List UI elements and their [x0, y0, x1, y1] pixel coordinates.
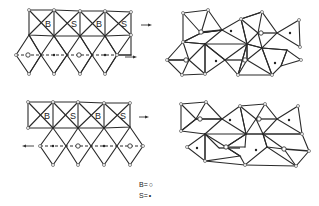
b-site-icon	[128, 144, 132, 148]
s-site-icon	[229, 119, 231, 121]
square-label: B	[96, 19, 102, 29]
b-site-icon	[282, 147, 286, 151]
arrow-right-icon	[139, 116, 149, 119]
s-site-icon	[215, 60, 217, 62]
s-site-icon	[196, 147, 198, 149]
panel-top-left: B S B S	[15, 9, 153, 76]
square-label: S	[70, 111, 76, 121]
b-site-icon	[259, 31, 263, 35]
s-site-icon	[289, 32, 291, 34]
panel-bottom-right	[180, 101, 311, 168]
s-site-icon	[230, 30, 232, 32]
arrow-right-icon	[125, 56, 137, 59]
b-site-icon	[243, 58, 247, 62]
figure: B S B S	[0, 0, 319, 206]
b-site-icon	[257, 117, 261, 121]
s-site-icon	[255, 149, 257, 151]
legend-equals: =	[144, 181, 148, 188]
open-circle-icon: ○	[149, 181, 153, 188]
b-site-icon	[199, 30, 203, 34]
s-site-icon	[104, 54, 106, 56]
legend-equals: =	[144, 192, 148, 199]
s-site-icon	[288, 119, 290, 121]
b-site-icon	[77, 53, 81, 57]
b-site-icon	[184, 58, 188, 62]
square-label: B	[95, 111, 101, 121]
s-site-icon	[52, 145, 54, 147]
legend-s: S=•	[139, 192, 151, 199]
s-site-icon	[53, 54, 55, 56]
square-label: S	[71, 19, 77, 29]
b-site-icon	[76, 144, 80, 148]
b-site-icon	[224, 145, 228, 149]
square-label: B	[45, 19, 51, 29]
legend-b: B=○	[139, 181, 153, 188]
square-label: S	[120, 111, 126, 121]
s-site-icon	[103, 145, 105, 147]
square-label: B	[44, 111, 50, 121]
arrow-right-icon	[141, 24, 152, 27]
arrow-left-icon	[22, 145, 34, 148]
square-label: S	[121, 19, 127, 29]
panel-bottom-left: B S B S	[22, 101, 149, 167]
b-site-icon	[198, 117, 202, 121]
b-site-icon	[26, 53, 30, 57]
structure-diagram: B S B S	[0, 0, 319, 206]
panel-top-right	[166, 9, 303, 77]
filled-dot-icon: •	[149, 192, 151, 199]
s-site-icon	[274, 62, 276, 64]
